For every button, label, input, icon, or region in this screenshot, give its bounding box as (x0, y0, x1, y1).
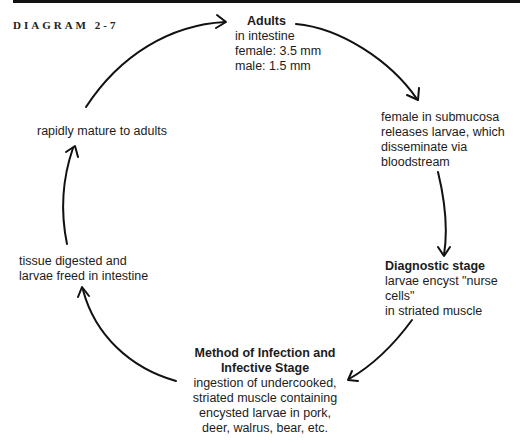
node-diagnostic: Diagnostic stage larvae encyst "nurse ce… (385, 259, 529, 319)
arrow-to-maturation (63, 148, 73, 244)
maturation-line: rapidly mature to adults (37, 124, 167, 139)
node-dissemination: female in submucosa releases larvae, whi… (381, 110, 505, 170)
digestion-line: tissue digested and (19, 254, 148, 269)
diagnostic-line: larvae encyst "nurse cells" (385, 274, 529, 304)
infection-title: Infective Stage (180, 361, 350, 376)
diagnostic-line: in striated muscle (385, 304, 529, 319)
infection-line: ingestion of undercooked, (180, 376, 350, 391)
digestion-line: larvae freed in intestine (19, 269, 148, 284)
infection-title: Method of Infection and (180, 346, 350, 361)
node-digestion: tissue digested and larvae freed in inte… (19, 254, 148, 284)
infection-line: striated muscle containing (180, 391, 350, 406)
adults-title: Adults (247, 14, 321, 29)
diagnostic-title: Diagnostic stage (385, 259, 529, 274)
dissemination-line: disseminate via (381, 140, 505, 155)
arrow-to-infection (349, 320, 412, 379)
dissemination-line: bloodstream (381, 155, 505, 170)
node-maturation: rapidly mature to adults (37, 124, 167, 139)
adults-line: male: 1.5 mm (235, 59, 321, 74)
node-infection: Method of Infection and Infective Stage … (180, 346, 350, 436)
node-adults: Adults in intestine female: 3.5 mm male:… (235, 14, 321, 74)
arrow-to-diagnostic (438, 172, 446, 255)
arrow-to-adults (86, 22, 225, 107)
arrow-from-infection (83, 290, 176, 381)
dissemination-line: releases larvae, which (381, 125, 505, 140)
adults-line: in intestine (235, 29, 321, 44)
dissemination-line: female in submucosa (381, 110, 505, 125)
infection-line: encysted larvae in pork, (180, 406, 350, 421)
adults-line: female: 3.5 mm (235, 44, 321, 59)
infection-line: deer, walrus, bear, etc. (180, 421, 350, 436)
